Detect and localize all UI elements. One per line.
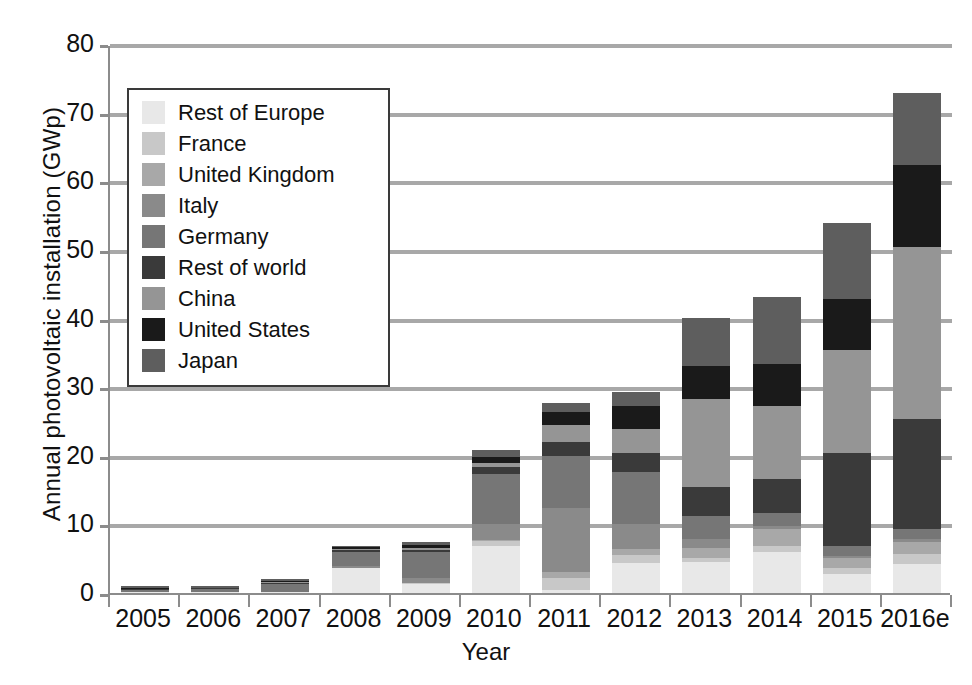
bar-segment [893,542,941,554]
bar-segment [472,524,520,540]
legend-item: Rest of Europe [129,97,388,128]
bar-segment [753,297,801,364]
bar-segment [823,299,871,350]
bar-segment [191,592,239,593]
y-tick-mark [100,114,108,117]
legend-label: United Kingdom [178,163,335,186]
y-tick-mark [100,388,108,391]
y-tick-mark [100,594,108,597]
legend-label: Rest of world [178,256,306,279]
bar-2006 [191,586,239,593]
legend-item: Italy [129,190,388,221]
bar-segment [612,429,660,453]
y-tick-label: 10 [8,509,94,538]
legend-label: United States [178,318,310,341]
bar-segment [542,412,590,425]
y-tick-label: 70 [8,98,94,127]
x-axis-title: Year [0,638,972,666]
legend-label: Rest of Europe [178,101,325,124]
y-tick-label: 20 [8,441,94,470]
legend-item: Japan [129,345,388,376]
bar-segment [893,247,941,419]
y-tick-mark [100,525,108,528]
bar-segment [823,574,871,593]
y-tick-label: 60 [8,166,94,195]
bar-segment [682,399,730,488]
bar-segment [402,584,450,593]
bar-segment [542,403,590,412]
bar-segment [542,578,590,590]
bar-segment [682,318,730,366]
bar-segment [121,592,169,593]
bar-2014 [753,297,801,593]
legend-item: France [129,128,388,159]
legend-swatch-icon [142,349,165,372]
bar-segment [823,558,871,568]
bar-segment [612,524,660,549]
legend-label: Germany [178,225,268,248]
bar-segment [332,552,380,566]
legend-swatch-icon [142,163,165,186]
bar-segment [542,456,590,507]
bar-segment [612,555,660,563]
legend-item: China [129,283,388,314]
bar-segment [612,472,660,524]
bar-segment [542,508,590,572]
y-tick-mark [100,45,108,48]
bar-2009 [402,542,450,593]
bar-segment [612,453,660,472]
bar-segment [823,223,871,298]
bar-2007 [261,579,309,593]
legend-swatch-icon [142,318,165,341]
legend-label: Italy [178,194,218,217]
bar-2010 [472,450,520,593]
bar-segment [542,425,590,442]
y-tick-mark [100,182,108,185]
legend-swatch-icon [142,101,165,124]
bar-segment [261,592,309,593]
y-tick-mark [100,457,108,460]
bar-segment [893,419,941,529]
bar-segment [753,513,801,526]
gridline [110,44,952,48]
y-tick-label: 80 [8,29,94,58]
y-tick-label: 30 [8,372,94,401]
bar-segment [472,474,520,525]
bar-2012 [612,392,660,593]
bar-segment [753,552,801,593]
bar-segment [893,529,941,539]
bar-segment [753,479,801,513]
bar-segment [472,450,520,457]
legend: Rest of EuropeFranceUnited KingdomItalyG… [127,88,390,387]
legend-swatch-icon [142,194,165,217]
bar-2016e [893,93,941,593]
bar-segment [893,554,941,564]
y-tick-label: 0 [8,578,94,607]
y-tick-mark [100,251,108,254]
bar-segment [682,562,730,593]
bar-segment [753,406,801,479]
bar-2013 [682,318,730,593]
legend-item: United States [129,314,388,345]
bar-2011 [542,403,590,593]
bar-segment [823,350,871,453]
bar-segment [753,364,801,407]
bar-segment [332,568,380,593]
bar-2005 [121,586,169,593]
y-tick-label: 40 [8,304,94,333]
bar-segment [542,442,590,456]
bar-segment [893,93,941,165]
legend-swatch-icon [142,225,165,248]
legend-label: France [178,132,246,155]
bar-segment [682,548,730,558]
bar-segment [823,546,871,556]
bar-segment [261,584,309,592]
bar-segment [402,552,450,578]
legend-swatch-icon [142,256,165,279]
bar-segment [682,366,730,399]
y-tick-label: 50 [8,235,94,264]
bar-segment [472,467,520,474]
bar-segment [612,406,660,429]
bar-segment [682,516,730,539]
x-tick-label: 2016e [867,604,963,633]
